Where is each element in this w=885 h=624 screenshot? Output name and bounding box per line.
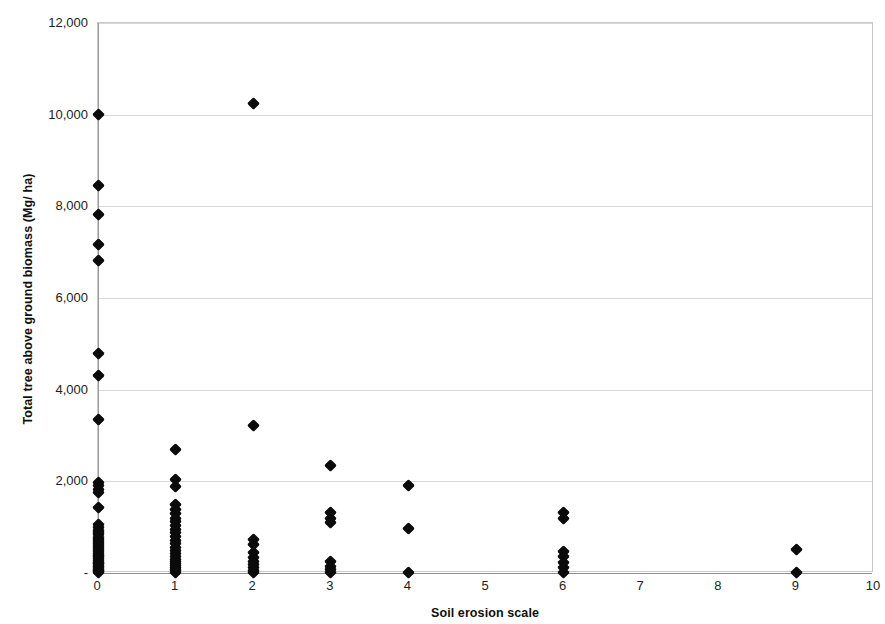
x-tick-label: 2 — [232, 578, 272, 593]
data-point — [92, 208, 105, 221]
data-point — [402, 566, 415, 579]
gridline — [98, 23, 872, 24]
data-point — [92, 255, 105, 268]
y-tick-label: 12,000 — [0, 15, 88, 30]
x-tick-label: 1 — [155, 578, 195, 593]
gridline — [98, 481, 872, 482]
data-point — [247, 420, 260, 433]
x-tick-label: 4 — [387, 578, 427, 593]
y-tick-label: 4,000 — [0, 381, 88, 396]
data-point — [92, 501, 105, 514]
data-point — [324, 459, 337, 472]
scatter-chart-figure: Total tree above ground biomass (Mg/ ha)… — [0, 0, 885, 624]
gridline — [98, 206, 872, 207]
data-point — [92, 238, 105, 251]
data-point — [92, 370, 105, 383]
x-tick-label: 10 — [853, 578, 885, 593]
y-tick-label: 2,000 — [0, 473, 88, 488]
data-point — [247, 97, 260, 110]
y-tick-label: 10,000 — [0, 106, 88, 121]
x-axis-title: Soil erosion scale — [97, 606, 873, 620]
gridline — [98, 298, 872, 299]
x-tick-label: 5 — [465, 578, 505, 593]
y-tick-label: 8,000 — [0, 198, 88, 213]
x-tick-label: 7 — [620, 578, 660, 593]
data-point — [92, 414, 105, 427]
x-tick-label: 8 — [698, 578, 738, 593]
x-tick-label: 9 — [775, 578, 815, 593]
data-point — [402, 522, 415, 535]
gridline — [98, 115, 872, 116]
y-axis-tick-labels: -2,0004,0006,0008,00010,00012,000 — [0, 22, 88, 572]
data-point — [790, 543, 803, 556]
x-tick-label: 0 — [77, 578, 117, 593]
x-axis-line — [98, 573, 872, 574]
data-point — [169, 443, 182, 456]
data-point — [92, 179, 105, 192]
y-tick-label: - — [0, 565, 88, 580]
data-point — [790, 566, 803, 579]
gridline — [98, 390, 872, 391]
plot-area — [97, 22, 873, 572]
x-tick-label: 3 — [310, 578, 350, 593]
y-tick-label: 6,000 — [0, 290, 88, 305]
data-point — [92, 108, 105, 121]
data-point — [92, 348, 105, 361]
x-tick-label: 6 — [543, 578, 583, 593]
